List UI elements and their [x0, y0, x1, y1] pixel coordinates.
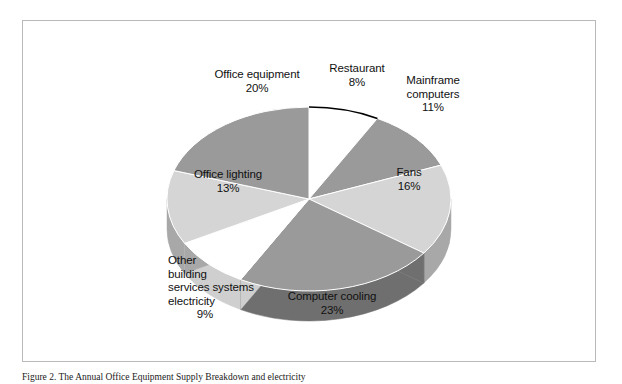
pie-label-office-lighting-value: 13% — [178, 182, 278, 196]
pie-label-other-building-services: Other building services systems electric… — [168, 254, 272, 322]
pie-label-office-lighting: Office lighting 13% — [178, 168, 278, 195]
pie-label-mainframe-computers-name-line2: computers — [392, 88, 474, 102]
pie-label-other-building-services-line2: building — [168, 268, 272, 282]
pie-label-mainframe-computers-value: 11% — [392, 101, 474, 115]
pie-label-fans-name: Fans — [386, 166, 432, 180]
pie-label-fans: Fans 16% — [386, 166, 432, 193]
pie-label-computer-cooling-value: 23% — [274, 304, 390, 318]
pie-label-office-equipment-name: Office equipment — [196, 68, 318, 82]
pie-label-fans-value: 16% — [386, 180, 432, 194]
pie-label-other-building-services-value: 9% — [168, 308, 242, 322]
pie-label-office-equipment-value: 20% — [196, 82, 318, 96]
figure-caption: Figure 2. The Annual Office Equipment Su… — [22, 372, 602, 383]
pie-label-mainframe-computers: Mainframe computers 11% — [392, 74, 474, 115]
pie-label-computer-cooling-name: Computer cooling — [274, 290, 390, 304]
pie-label-computer-cooling: Computer cooling 23% — [274, 290, 390, 317]
pie-label-restaurant: Restaurant 8% — [318, 62, 396, 89]
pie-label-other-building-services-line4: electricity — [168, 295, 272, 309]
pie-label-mainframe-computers-name-line1: Mainframe — [392, 74, 474, 88]
pie-label-other-building-services-line3: services systems — [168, 281, 272, 295]
pie-label-restaurant-name: Restaurant — [318, 62, 396, 76]
pie-label-restaurant-value: 8% — [318, 76, 396, 90]
pie-label-office-lighting-name: Office lighting — [178, 168, 278, 182]
pie-label-office-equipment: Office equipment 20% — [196, 68, 318, 95]
pie-label-other-building-services-line1: Other — [168, 254, 272, 268]
